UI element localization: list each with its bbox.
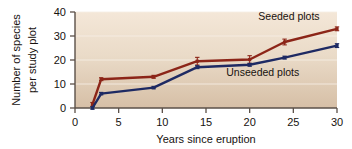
data-point — [248, 58, 251, 61]
data-point — [91, 106, 94, 109]
x-tick-label-0: 0 — [72, 116, 78, 128]
chart-figure: 010203040 051015202530 Seeded plotsUnsee… — [0, 0, 352, 149]
data-point — [152, 75, 155, 78]
x-tick-label-20: 20 — [244, 116, 256, 128]
data-point — [100, 78, 103, 81]
series-label-unseeded-plots: Unseeded plots — [226, 66, 299, 78]
data-point — [152, 86, 155, 89]
x-tick-label-10: 10 — [156, 116, 168, 128]
y-axis-title-line2: per study plot — [26, 27, 38, 93]
series-label-seeded-plots: Seeded plots — [258, 10, 319, 22]
data-point — [283, 56, 286, 59]
data-point — [196, 66, 199, 69]
y-tick-label-30: 30 — [54, 30, 66, 42]
x-tick-label-30: 30 — [331, 116, 343, 128]
data-point — [196, 60, 199, 63]
data-point — [335, 44, 338, 47]
y-tick-label-0: 0 — [60, 102, 66, 114]
y-tick-label-40: 40 — [54, 6, 66, 18]
data-point — [100, 92, 103, 95]
x-tick-label-15: 15 — [200, 116, 212, 128]
chart-canvas: 010203040 051015202530 Seeded plotsUnsee… — [0, 0, 352, 149]
y-axis-title-line1: Number of species — [10, 14, 22, 106]
y-tick-label-20: 20 — [54, 54, 66, 66]
data-point — [283, 40, 286, 43]
x-tick-label-25: 25 — [287, 116, 299, 128]
data-point — [335, 27, 338, 30]
x-tick-label-5: 5 — [116, 116, 122, 128]
y-tick-label-10: 10 — [54, 78, 66, 90]
x-axis-title: Years since eruption — [156, 133, 255, 145]
